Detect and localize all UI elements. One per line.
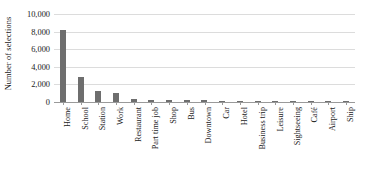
bar: [113, 93, 119, 102]
bar-slot: [337, 14, 355, 102]
bar-slot: [196, 14, 214, 102]
bar-slot: [125, 14, 143, 102]
y-axis-title: Number of selections: [0, 0, 18, 106]
bar-slot: [160, 14, 178, 102]
bar-slot: [249, 14, 267, 102]
x-axis-tick-label-text: Ship: [346, 105, 355, 122]
bar-slot: [107, 14, 125, 102]
bar-slot: [266, 14, 284, 102]
y-axis-tick-label: 2,000: [31, 80, 50, 89]
x-axis-tick-label-text: Car: [222, 105, 231, 119]
y-axis-tick-label: 4,000: [31, 62, 50, 71]
y-axis-tick-label: 0: [46, 98, 50, 107]
bar-slot: [54, 14, 72, 102]
bar-slot: [143, 14, 161, 102]
bar-slot: [213, 14, 231, 102]
bars-layer: [54, 14, 355, 102]
x-axis-tick-label-text: Leisure: [275, 105, 284, 132]
x-axis-tick-label-text: Restaurant: [134, 105, 143, 142]
x-axis-tick-label-text: Shop: [169, 105, 178, 124]
bar-slot: [284, 14, 302, 102]
x-axis-tick-label-text: Work: [116, 105, 125, 125]
x-axis-tick-labels: HomeSchoolStationWorkRestaurantPart time…: [54, 105, 355, 177]
bar-slot: [72, 14, 90, 102]
bar: [95, 91, 101, 102]
x-axis-tick-label-text: Business trip: [258, 105, 267, 150]
bar-chart: Number of selections 10,0008,0006,0004,0…: [0, 0, 365, 178]
bar-slot: [320, 14, 338, 102]
bar: [78, 77, 84, 102]
y-axis-tick-label: 6,000: [31, 45, 50, 54]
bar-slot: [302, 14, 320, 102]
x-axis-tick-label-text: School: [81, 105, 90, 130]
bar: [60, 30, 66, 102]
bar-slot: [89, 14, 107, 102]
x-axis-tick-label-text: Part time job: [151, 105, 160, 149]
x-axis-tick-label-text: Café: [311, 105, 320, 122]
x-axis-tick-label-text: Sightseeing: [293, 105, 302, 145]
bar-slot: [231, 14, 249, 102]
y-axis-tick-label: 10,000: [27, 10, 50, 19]
x-axis-tick-label-text: Station: [98, 105, 107, 130]
x-axis-tick-label-text: Home: [63, 105, 72, 127]
x-axis-tick-label-text: Hotel: [240, 105, 249, 125]
y-axis-tick-label: 8,000: [31, 27, 50, 36]
x-axis-tick-label-text: Downtown: [205, 105, 214, 143]
plot-area: [54, 14, 355, 102]
y-axis-title-text: Number of selections: [5, 16, 14, 90]
x-axis-tick-label-text: Airport: [328, 105, 337, 131]
bar-slot: [178, 14, 196, 102]
y-axis-tick-labels: 10,0008,0006,0004,0002,0000: [18, 14, 53, 102]
x-axis-tick-label-text: Bus: [187, 105, 196, 120]
